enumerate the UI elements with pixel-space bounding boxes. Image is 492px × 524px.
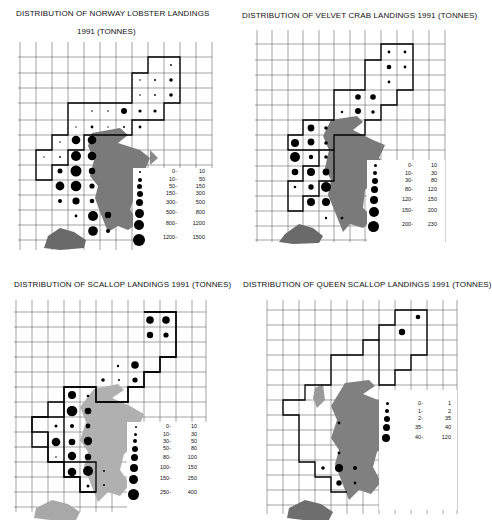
legend-dot-icon [136,199,143,206]
panel-norway-lobster: DISTRIBUTION OF NORWAY LOBSTER LANDINGS … [0,0,245,260]
legend-dot-icon [133,439,137,443]
legend-dot-icon [371,186,378,193]
legend-dot-icon [138,178,142,182]
legend-velvet-crab: 0-10 10-30 30-80 80-120 120-150 150-200 … [367,160,445,242]
map-scallop [0,262,245,524]
legend-scallop: 0-10 10-30 30-50 50-80 80-100 100-150 15… [127,422,207,512]
legend-dot-icon [369,207,379,217]
legend-dot-icon [370,196,378,204]
legend-dot-icon [382,434,390,442]
legend-dot-icon [139,171,141,173]
legend-dot-icon [368,221,379,232]
legend-dot-icon [131,454,138,461]
legend-dot-icon [134,220,144,230]
legend-dot-icon [374,164,377,167]
legend-dot-icon [130,464,138,472]
legend-dot-icon [135,209,144,218]
legend-dot-icon [135,426,137,428]
legend-dot-icon [132,446,138,452]
legend-dot-icon [137,184,142,189]
legend-dot-icon [383,424,390,431]
legend-queen-scallop: 0-1 1-2 2-35 35-40 40-120 [379,390,457,510]
legend-dot-icon [137,191,143,197]
panel-queen-scallop: DISTRIBUTION OF QUEEN SCALLOP LANDINGS 1… [245,262,491,524]
legend-dot-icon [384,416,390,422]
legend-dot-icon [386,402,389,405]
legend-dot-icon [372,178,378,184]
legend-dot-icon [133,234,145,246]
legend-dot-icon [385,409,389,413]
legend-dot-icon [373,171,377,175]
legend-dot-icon [129,475,138,484]
legend-dot-icon [128,489,139,500]
panel-velvet-crab: DISTRIBUTION OF VELVET CRAB LANDINGS 199… [245,0,491,260]
legend-dot-icon [134,433,137,436]
panel-scallop: DISTRIBUTION OF SCALLOP LANDINGS 1991 (T… [0,262,245,524]
legend-norway-lobster: 0-10 10-50 50-150 150-300 300-500 500-80… [133,168,213,253]
